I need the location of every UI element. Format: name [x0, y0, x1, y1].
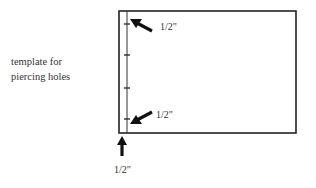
- top-margin-label: 1/2": [160, 21, 177, 32]
- bottom-margin-label: 1/2": [156, 109, 173, 120]
- top-arrow-icon: [130, 19, 152, 31]
- side-margin-label: 1/2": [114, 164, 131, 175]
- bottom-arrow-icon: [130, 112, 152, 124]
- side-arrow-icon: [117, 136, 127, 156]
- piercing-template-diagram: 1/2" 1/2" 1/2": [0, 0, 316, 188]
